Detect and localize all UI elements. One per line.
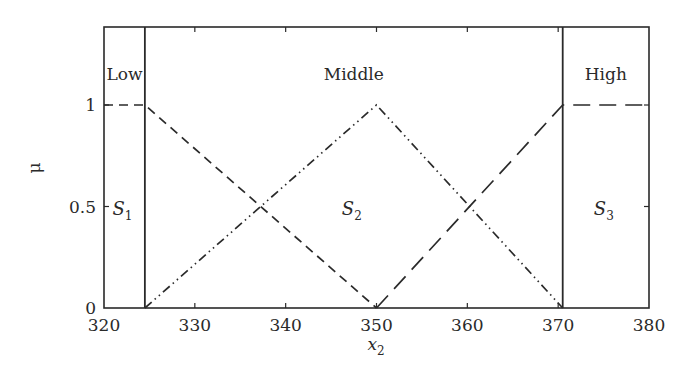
- x-tick-label: 370: [542, 315, 574, 335]
- set-label-subscript: 2: [354, 209, 362, 223]
- x-tick-label: 320: [88, 315, 120, 335]
- region-name-middle: Middle: [324, 64, 384, 84]
- y-axis-label: μ: [24, 162, 44, 173]
- x-tick-label: 350: [360, 315, 392, 335]
- y-tick-label: 0: [85, 298, 96, 318]
- y-tick-label: 1: [85, 95, 96, 115]
- x-axis-label-subscript: 2: [377, 344, 385, 358]
- x-tick-label: 340: [269, 315, 301, 335]
- set-label-low: S1: [112, 198, 132, 223]
- x-tick-label: 360: [451, 315, 483, 335]
- y-tick-label: 0.5: [69, 197, 96, 217]
- set-label-high: S3: [594, 198, 614, 223]
- x-axis-label-main: x: [367, 334, 377, 354]
- set-label-subscript: 1: [125, 209, 133, 223]
- region-name-high: High: [585, 64, 627, 84]
- set-label-middle: S2: [342, 198, 362, 223]
- fuzzy-membership-chart: 32033034035036037038000.51 LowS1MiddleS2…: [0, 0, 697, 382]
- region-name-low: Low: [106, 64, 143, 84]
- series-line: [377, 105, 650, 308]
- x-tick-label: 330: [179, 315, 211, 335]
- membership-series: [104, 105, 649, 308]
- x-axis-label: x2: [367, 334, 384, 358]
- x-tick-label: 380: [633, 315, 665, 335]
- region-labels: LowS1MiddleS2HighS3: [106, 64, 627, 223]
- set-label-subscript: 3: [606, 209, 614, 223]
